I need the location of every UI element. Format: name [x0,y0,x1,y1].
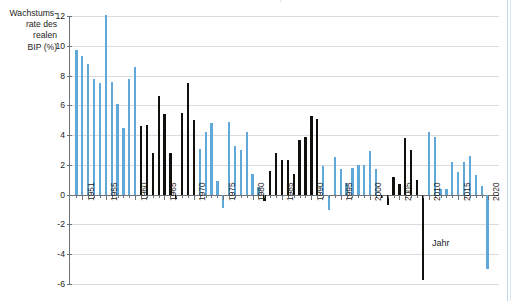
x-tick-1994 [335,195,336,198]
bar-1983 [269,171,271,195]
chart-title-cropped: Wachstumsrate des realen Bruttoinlandspr… [150,0,490,4]
x-tick-label-2015: 2015 [462,182,472,201]
y-tick-label--2: -2 [57,219,65,229]
y-tick-label-10: 10 [55,41,65,51]
x-tick-1973 [211,195,212,198]
bar-1955 [105,15,107,195]
x-tick-2015 [458,195,459,200]
bar-2019 [481,186,483,195]
bar-1958 [122,128,124,195]
y-tick-label-2: 2 [60,160,65,170]
x-tick-1950 [76,195,77,198]
x-tick-2008 [417,195,418,198]
x-axis-title: Jahr [432,238,450,248]
bar-1951 [81,56,83,194]
x-tick-1974 [217,195,218,198]
x-tick-1980 [253,195,254,200]
bar-1954 [99,83,101,195]
bar-1973 [210,123,212,194]
y-tick-label-8: 8 [60,71,65,81]
x-tick-label-1980: 1980 [256,182,266,201]
x-tick-2000 [370,195,371,200]
bar-1956 [111,82,113,195]
bar-2015 [457,172,459,194]
bar-1950 [75,50,77,194]
x-tick-1955 [106,195,107,200]
x-tick-1968 [182,195,183,198]
x-tick-label-2000: 2000 [373,182,383,201]
bar-1959 [128,79,130,195]
bar-2004 [392,177,394,195]
x-tick-1995 [341,195,342,200]
x-tick-label-1970: 1970 [197,182,207,201]
bar-2018 [475,175,477,194]
x-tick-2014 [452,195,453,198]
x-tick-label-1985: 1985 [285,182,295,201]
gridline--6 [69,284,499,285]
x-tick-label-1995: 1995 [344,182,354,201]
x-tick-2020 [488,195,489,200]
x-tick-label-2010: 2010 [432,182,442,201]
x-tick-1990 [311,195,312,200]
x-tick-label-1965: 1965 [168,182,178,201]
bar-1978 [240,150,242,195]
x-tick-label-2020: 2020 [491,182,501,201]
bar-1969 [187,83,189,195]
bar-1968 [181,113,183,195]
x-tick-label-1975: 1975 [227,182,237,201]
x-tick-2003 [388,195,389,198]
x-tick-label-1990: 1990 [315,182,325,201]
bar-2010 [428,132,430,195]
bar-1990 [310,116,312,195]
bar-1963 [152,153,154,195]
x-tick-2009 [423,195,424,198]
bar-1980 [251,174,253,195]
bar-1970 [193,120,195,194]
bar-1965 [163,114,165,194]
x-tick-1958 [123,195,124,198]
bar-1953 [93,79,95,195]
bar-1998 [357,165,359,195]
x-tick-1988 [300,195,301,198]
x-tick-1970 [194,195,195,200]
y-tick--6 [67,284,72,285]
x-tick-1999 [364,195,365,198]
bar-1979 [246,132,248,195]
y-axis-label-line-4: BIP (%) [0,42,57,53]
bar-1994 [334,157,336,194]
bar-2008 [416,180,418,195]
bar-1999 [363,165,365,195]
bar-2014 [451,162,453,195]
y-axis-label-line-2: rate des [0,19,57,30]
x-tick-1969 [188,195,189,198]
x-tick-1960 [135,195,136,200]
x-tick-label-2005: 2005 [403,182,413,201]
x-tick-2004 [394,195,395,198]
bar-2005 [398,184,400,194]
x-tick-label-1955: 1955 [109,182,119,201]
x-tick-1983 [270,195,271,198]
bar-1985 [281,160,283,194]
y-tick-label--6: -6 [57,279,65,289]
x-tick-1985 [282,195,283,200]
y-tick-label--4: -4 [57,249,65,259]
x-tick-2010 [429,195,430,200]
y-axis-label: Wachstums- rate des realen BIP (%) [0,8,57,53]
y-axis-label-line-1: Wachstums- [0,8,57,19]
x-tick-1989 [305,195,306,198]
x-tick-1964 [159,195,160,198]
x-tick-1993 [329,195,330,198]
x-tick-1979 [247,195,248,198]
x-tick-1984 [276,195,277,198]
x-tick-1975 [223,195,224,200]
bar-2000 [369,151,371,194]
x-tick-2018 [476,195,477,198]
x-tick-1963 [153,195,154,198]
x-tick-1965 [164,195,165,200]
y-tick-label-0: 0 [60,190,65,200]
bar-1984 [275,153,277,195]
x-tick-2019 [482,195,483,198]
bar-1995 [340,169,342,194]
bar-1974 [216,181,218,194]
bar-1952 [87,64,89,195]
